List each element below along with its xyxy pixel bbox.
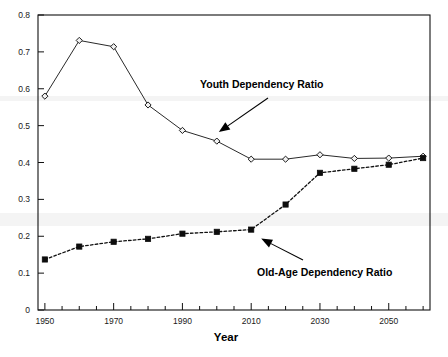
- data-point-oldage: [214, 229, 219, 234]
- x-tick-label: 1970: [104, 316, 123, 326]
- data-point-oldage: [352, 166, 357, 171]
- data-point-oldage: [77, 244, 82, 249]
- x-axis-title: Year: [214, 331, 239, 343]
- dependency-ratio-line-chart: 00.10.20.30.40.50.60.70.8 19501970199020…: [0, 0, 448, 357]
- y-tick-label: 0.4: [18, 158, 30, 168]
- y-tick-label: 0.3: [18, 194, 30, 204]
- y-tick-label: 0.7: [18, 47, 30, 57]
- data-point-oldage: [111, 239, 116, 244]
- scan-band-lower: [0, 213, 448, 226]
- y-axis-tick-labels: 00.10.20.30.40.50.60.70.8: [18, 10, 30, 315]
- y-tick-label: 0.5: [18, 121, 30, 131]
- annotation-oldage-label: Old-Age Dependency Ratio: [257, 266, 392, 278]
- x-tick-label: 2010: [242, 316, 261, 326]
- y-tick-label: 0.1: [18, 268, 30, 278]
- data-point-oldage: [42, 257, 47, 262]
- x-tick-label: 2030: [311, 316, 330, 326]
- data-point-oldage: [145, 236, 150, 241]
- data-point-oldage: [421, 155, 426, 160]
- chart-figure: 00.10.20.30.40.50.60.70.8 19501970199020…: [0, 0, 448, 357]
- data-point-oldage: [249, 227, 254, 232]
- data-point-oldage: [317, 170, 322, 175]
- data-point-oldage: [386, 162, 391, 167]
- y-tick-label: 0.2: [18, 231, 30, 241]
- x-tick-label: 1990: [173, 316, 192, 326]
- data-point-oldage: [180, 231, 185, 236]
- x-tick-label: 2050: [379, 316, 398, 326]
- y-tick-label: 0.8: [18, 10, 30, 20]
- annotation-youth-label: Youth Dependency Ratio: [200, 78, 323, 90]
- y-tick-label: 0: [25, 305, 30, 315]
- chart-background: [0, 0, 448, 357]
- data-point-oldage: [283, 202, 288, 207]
- scan-band-upper: [0, 96, 448, 101]
- y-tick-label: 0.6: [18, 84, 30, 94]
- x-tick-label: 1950: [35, 316, 54, 326]
